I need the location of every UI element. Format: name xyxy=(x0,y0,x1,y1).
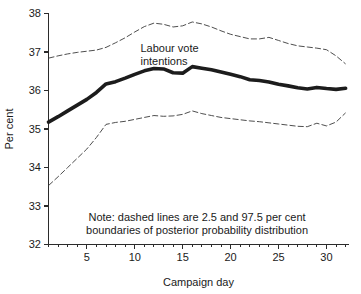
y-axis-title: Per cent xyxy=(3,109,15,150)
y-tick-label: 38 xyxy=(29,7,41,19)
x-tick-label: 25 xyxy=(272,251,284,263)
y-tick-label: 32 xyxy=(29,238,41,250)
y-tick-label: 34 xyxy=(29,161,41,173)
x-tick-label: 5 xyxy=(84,251,90,263)
x-axis-title: Campaign day xyxy=(163,276,234,288)
x-tick-label: 10 xyxy=(129,251,141,263)
y-tick-label: 35 xyxy=(29,123,41,135)
x-tick-label: 15 xyxy=(177,251,189,263)
chart-container: 32333435363738 51015202530 Labour votein… xyxy=(0,0,361,294)
series-label-line: intentions xyxy=(141,55,189,67)
y-tick-label: 37 xyxy=(29,46,41,58)
x-tick-label: 30 xyxy=(320,251,332,263)
series-label-line: Labour vote xyxy=(141,42,199,54)
x-tick-label: 20 xyxy=(224,251,236,263)
note-text-line: boundaries of posterior probability dist… xyxy=(86,224,308,236)
line-chart: 32333435363738 51015202530 Labour votein… xyxy=(0,0,361,294)
note-text-line: Note: dashed lines are 2.5 and 97.5 per … xyxy=(89,211,306,223)
y-tick-label: 36 xyxy=(29,84,41,96)
y-tick-label: 33 xyxy=(29,200,41,212)
